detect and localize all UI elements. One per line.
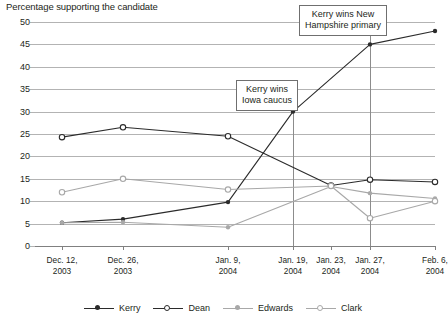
data-point (60, 221, 64, 225)
x-tick (123, 246, 124, 250)
legend-swatch-dean-icon (153, 304, 183, 313)
y-tick-label: 40 (20, 66, 30, 67)
x-tick-label: Jan. 27,2004 (355, 255, 385, 276)
chart-legend: KerryDeanEdwardsClark (0, 303, 446, 313)
data-point (120, 176, 125, 181)
data-point (120, 125, 125, 130)
legend-marker (164, 305, 170, 311)
data-point (226, 225, 230, 229)
data-point (328, 183, 333, 188)
legend-label: Kerry (119, 303, 141, 313)
y-tick-label: 35 (20, 89, 30, 90)
y-tick-label: 50 (20, 22, 30, 23)
x-tick-label: Feb. 6,2004 (422, 255, 448, 276)
x-tick (331, 246, 332, 250)
legend-label: Dean (188, 303, 210, 313)
x-tick (62, 246, 63, 250)
data-point (225, 187, 230, 192)
plot-area: 05101520253035404550 Dec. 12,2003Dec. 26… (35, 22, 435, 246)
data-point (59, 190, 64, 195)
data-point (226, 200, 230, 204)
x-tick-label: Dec. 12,2003 (47, 255, 78, 276)
series-clark (59, 176, 437, 221)
data-point (121, 220, 125, 224)
x-tick-label: Jan. 19,2004 (278, 255, 308, 276)
legend-swatch-kerry-icon (84, 304, 114, 313)
y-tick-label: 10 (20, 201, 30, 202)
legend-item-dean[interactable]: Dean (153, 303, 210, 313)
data-point (59, 134, 64, 139)
chart-title: Percentage supporting the candidate (6, 1, 158, 12)
series-group (35, 22, 435, 246)
y-tick-label: 20 (20, 156, 30, 157)
legend-marker (317, 305, 323, 311)
y-tick-label: 45 (20, 44, 30, 45)
x-tick (293, 246, 294, 250)
legend-label: Edwards (258, 303, 293, 313)
y-tick-label: 30 (20, 111, 30, 112)
series-line-dean (62, 127, 435, 185)
series-kerry (60, 29, 437, 225)
x-tick-label: Dec. 26,2003 (108, 255, 139, 276)
x-tick-label: Jan. 23,2004 (316, 255, 346, 276)
legend-swatch-edwards-icon (223, 304, 253, 313)
annotation-callout-new-hampshire: Kerry wins NewHampshire primary (299, 5, 387, 36)
y-tick-label: 15 (20, 178, 30, 179)
series-dean (59, 125, 437, 189)
data-point (225, 134, 230, 139)
x-tick (228, 246, 229, 250)
data-point (367, 177, 372, 182)
legend-item-edwards[interactable]: Edwards (223, 303, 293, 313)
series-line-edwards (62, 186, 435, 227)
data-point (368, 191, 372, 195)
x-tick-label: Jan. 9,2004 (216, 255, 241, 276)
y-tick-label: 5 (25, 223, 30, 224)
legend-item-clark[interactable]: Clark (306, 303, 362, 313)
x-tick (370, 246, 371, 250)
series-edwards (60, 184, 437, 229)
legend-marker (235, 305, 240, 310)
x-tick (435, 246, 436, 250)
x-axis-line (35, 246, 435, 247)
y-tick-label: 0 (25, 246, 30, 247)
data-point (367, 216, 372, 221)
series-line-clark (62, 179, 435, 218)
data-point (432, 199, 437, 204)
legend-item-kerry[interactable]: Kerry (84, 303, 141, 313)
legend-swatch-clark-icon (306, 304, 336, 313)
legend-label: Clark (341, 303, 362, 313)
legend-marker (95, 305, 100, 310)
data-point (368, 42, 372, 46)
data-point (432, 179, 437, 184)
annotation-callout-iowa: Kerry winsIowa caucus (236, 80, 298, 111)
y-tick-label: 25 (20, 134, 30, 135)
data-point (433, 29, 437, 33)
